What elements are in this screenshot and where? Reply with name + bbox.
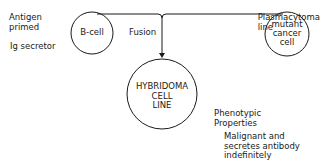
arrow-head-icon bbox=[159, 53, 165, 58]
fusion-label: Fusion bbox=[129, 28, 156, 38]
phenotypic-properties-body: Malignant and secretes antibody indefini… bbox=[224, 132, 300, 161]
phenotypic-properties-title: Phenotypic Properties bbox=[214, 109, 261, 128]
fusion-connector-line bbox=[97, 14, 283, 18]
b-cell-label: B-cell bbox=[71, 28, 113, 38]
ig-secretor-label: Ig secretor bbox=[10, 42, 56, 52]
plasmacytoma-line-label: Plasmacytoma line bbox=[258, 13, 320, 32]
hybridoma-cell-line-label: HYBRIDOMA CELL LINE bbox=[127, 82, 197, 111]
antigen-primed-label: Antigen primed bbox=[9, 13, 42, 32]
